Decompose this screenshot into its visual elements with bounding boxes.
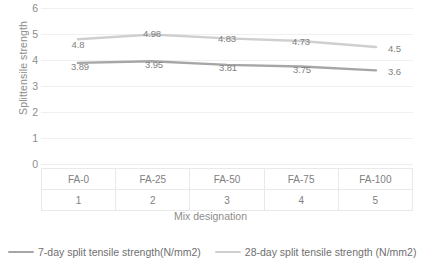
data-label-7day-4: 3.75 (293, 64, 311, 75)
x-axis-title: Mix designation (0, 210, 421, 222)
cell-index-5: 5 (338, 190, 412, 211)
data-label-7day-5: 3.6 (388, 66, 401, 77)
legend-swatch-28day (215, 251, 241, 254)
y-tick-4: 4 (22, 55, 38, 66)
y-tick-3: 3 (22, 81, 38, 92)
cell-index-4: 4 (264, 190, 338, 211)
data-label-28day-4: 4.73 (292, 36, 310, 47)
chart-legend: 7-day split tensile strength(N/mm2) 28-d… (8, 244, 421, 260)
gridline-0 (41, 164, 413, 165)
cell-category-5: FA-100 (338, 169, 412, 190)
y-tick-2: 2 (22, 107, 38, 118)
series-lines (41, 8, 413, 164)
legend-label-7day: 7-day split tensile strength(N/mm2) (38, 247, 201, 258)
legend-swatch-7day (8, 251, 34, 254)
y-axis-tick-labels: 0 1 2 3 4 5 6 (22, 0, 38, 170)
cell-category-3: FA-50 (190, 169, 264, 190)
data-label-28day-2: 4.98 (143, 28, 161, 39)
table-row-index: 1 2 3 4 5 (42, 190, 413, 211)
data-label-28day-1: 4.8 (72, 39, 85, 50)
cell-index-2: 2 (116, 190, 190, 211)
y-tick-6: 6 (22, 3, 38, 14)
y-tick-0: 0 (22, 159, 38, 170)
plot-area: 4.8 4.98 4.83 4.73 4.5 3.89 3.95 3.81 3.… (41, 8, 413, 164)
cell-category-2: FA-25 (116, 169, 190, 190)
cell-category-1: FA-0 (42, 169, 116, 190)
data-label-7day-2: 3.95 (145, 59, 163, 70)
legend-item-28day[interactable]: 28-day split tensile strength (N/mm2) (215, 247, 417, 258)
cell-index-1: 1 (42, 190, 116, 211)
legend-label-28day: 28-day split tensile strength (N/mm2) (245, 247, 417, 258)
cell-category-4: FA-75 (264, 169, 338, 190)
data-label-7day-3: 3.81 (219, 62, 237, 73)
data-label-7day-1: 3.89 (71, 61, 89, 72)
chart-container: Splittensile strength 0 1 2 3 4 5 6 4.8 … (0, 0, 421, 260)
category-table: FA-0 FA-25 FA-50 FA-75 FA-100 1 2 3 4 5 (41, 168, 413, 211)
table-row-category: FA-0 FA-25 FA-50 FA-75 FA-100 (42, 169, 413, 190)
data-label-28day-3: 4.83 (218, 33, 236, 44)
y-tick-5: 5 (22, 29, 38, 40)
y-tick-1: 1 (22, 133, 38, 144)
data-label-28day-5: 4.5 (388, 43, 401, 54)
cell-index-3: 3 (190, 190, 264, 211)
legend-item-7day[interactable]: 7-day split tensile strength(N/mm2) (8, 247, 201, 258)
